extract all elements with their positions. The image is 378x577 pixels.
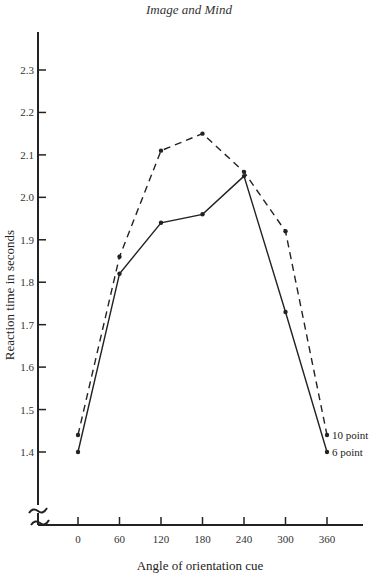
y-tick-label: 1.8 <box>20 276 34 288</box>
data-point <box>117 272 121 276</box>
data-point <box>242 170 246 174</box>
data-point <box>200 212 204 216</box>
data-point <box>159 221 163 225</box>
x-tick-label: 240 <box>236 533 253 545</box>
x-tick-label: 360 <box>319 533 336 545</box>
y-tick-label: 2.3 <box>20 64 34 76</box>
data-point <box>76 450 80 454</box>
data-point <box>76 433 80 437</box>
data-point <box>325 450 329 454</box>
chart-series <box>76 131 329 454</box>
y-tick-label: 2.1 <box>20 149 34 161</box>
data-point <box>200 131 204 135</box>
axis-break-icon <box>29 508 47 513</box>
y-tick-label: 2.0 <box>20 191 34 203</box>
y-tick-label: 2.2 <box>20 106 34 118</box>
x-tick-label: 60 <box>114 533 126 545</box>
y-tick-label: 1.9 <box>20 234 34 246</box>
line-chart: 2.32.22.12.01.91.81.71.61.51.40601201802… <box>0 0 378 577</box>
legend-label: 6 point <box>332 446 363 458</box>
y-tick-label: 1.5 <box>20 404 34 416</box>
series-line-6-point <box>78 176 327 452</box>
x-tick-label: 0 <box>75 533 81 545</box>
y-tick-label: 1.7 <box>20 319 34 331</box>
data-point <box>283 229 287 233</box>
y-axis-title: Reaction time in seconds <box>2 230 17 360</box>
x-tick-label: 180 <box>194 533 211 545</box>
x-axis-title: Angle of orientation cue <box>137 558 264 573</box>
x-tick-label: 120 <box>153 533 170 545</box>
y-tick-label: 1.6 <box>20 361 34 373</box>
x-tick-label: 300 <box>277 533 294 545</box>
y-tick-label: 1.4 <box>20 446 34 458</box>
data-point <box>325 433 329 437</box>
data-point <box>283 310 287 314</box>
data-point <box>242 174 246 178</box>
series-line-10-point <box>78 134 327 435</box>
data-point <box>159 148 163 152</box>
legend-label: 10 point <box>332 429 368 441</box>
chart-labels: 2.32.22.12.01.91.81.71.61.51.40601201802… <box>2 64 368 573</box>
data-point <box>117 255 121 259</box>
